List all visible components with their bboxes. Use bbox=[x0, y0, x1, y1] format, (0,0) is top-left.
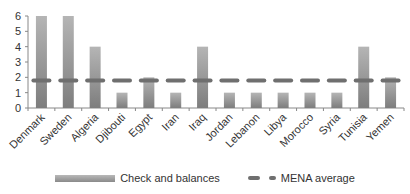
y-axis: 0123456 bbox=[15, 10, 28, 114]
x-tick-label: Egypt bbox=[126, 111, 154, 139]
x-tick-label: Denmark bbox=[7, 111, 47, 151]
legend-label-checks: Check and balances bbox=[120, 172, 220, 184]
legend: Check and balances MENA average bbox=[0, 168, 410, 188]
x-tick-label: Djibouti bbox=[93, 111, 127, 145]
bar bbox=[278, 93, 289, 108]
bar bbox=[358, 47, 369, 108]
bar bbox=[224, 93, 235, 108]
svg-text:2: 2 bbox=[15, 71, 21, 83]
bar bbox=[251, 93, 262, 108]
bar bbox=[197, 47, 208, 108]
bar bbox=[36, 16, 47, 108]
svg-text:6: 6 bbox=[15, 10, 21, 22]
bar bbox=[90, 47, 101, 108]
legend-label-mena: MENA average bbox=[281, 172, 355, 184]
x-tick-labels: DenmarkSwedenAlgeriaDjiboutiEgyptIranIra… bbox=[7, 110, 396, 151]
x-tick-label: Yemen bbox=[364, 111, 396, 143]
x-tick-label: Tunisia bbox=[336, 110, 370, 144]
svg-text:1: 1 bbox=[15, 87, 21, 99]
svg-text:5: 5 bbox=[15, 25, 21, 37]
bar-swatch-icon bbox=[55, 175, 115, 182]
bars-series bbox=[36, 16, 396, 108]
bar-chart: 0123456 DenmarkSwedenAlgeriaDjiboutiEgyp… bbox=[0, 0, 410, 194]
svg-text:3: 3 bbox=[15, 56, 21, 68]
legend-item-checks: Check and balances bbox=[55, 172, 220, 184]
x-tick-label: Iran bbox=[159, 111, 181, 133]
bar bbox=[117, 93, 128, 108]
bar bbox=[305, 93, 316, 108]
x-axis bbox=[28, 108, 404, 111]
dashed-line-swatch-icon bbox=[248, 176, 276, 180]
bar bbox=[63, 16, 74, 108]
svg-text:4: 4 bbox=[15, 41, 21, 53]
x-tick-label: Iraq bbox=[186, 111, 208, 133]
bar bbox=[170, 93, 181, 108]
svg-text:0: 0 bbox=[15, 102, 21, 114]
legend-item-mena: MENA average bbox=[248, 172, 355, 184]
bar bbox=[331, 93, 342, 108]
